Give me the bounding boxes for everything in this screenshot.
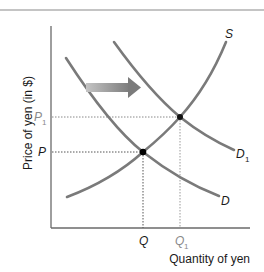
y-axis-label: Price of yen (in $) xyxy=(21,76,35,170)
svg-text:1: 1 xyxy=(245,155,250,164)
x-axis-label: Quantity of yen xyxy=(169,252,250,266)
demand-curve-shifted xyxy=(114,42,234,150)
svg-text:Q: Q xyxy=(175,234,184,248)
price-label-p: P xyxy=(38,145,46,159)
svg-text:1: 1 xyxy=(184,242,189,251)
svg-text:1: 1 xyxy=(42,118,47,127)
exchange-rate-diagram: Price of yen (in $) Quantity of yen S D … xyxy=(0,0,264,272)
equilibrium-point-new xyxy=(177,114,183,120)
demand-shifted-label: D 1 xyxy=(236,147,250,164)
svg-text:P: P xyxy=(34,110,42,124)
supply-curve xyxy=(67,42,226,197)
svg-text:D: D xyxy=(236,147,245,161)
demand-label: D xyxy=(221,194,230,208)
shift-right-arrow-icon xyxy=(86,77,141,98)
equilibrium-point-initial xyxy=(140,149,147,156)
supply-label: S xyxy=(225,27,233,41)
quantity-label-q: Q xyxy=(139,234,148,248)
price-label-p1: P 1 xyxy=(34,110,47,127)
quantity-label-q1: Q 1 xyxy=(175,234,189,251)
